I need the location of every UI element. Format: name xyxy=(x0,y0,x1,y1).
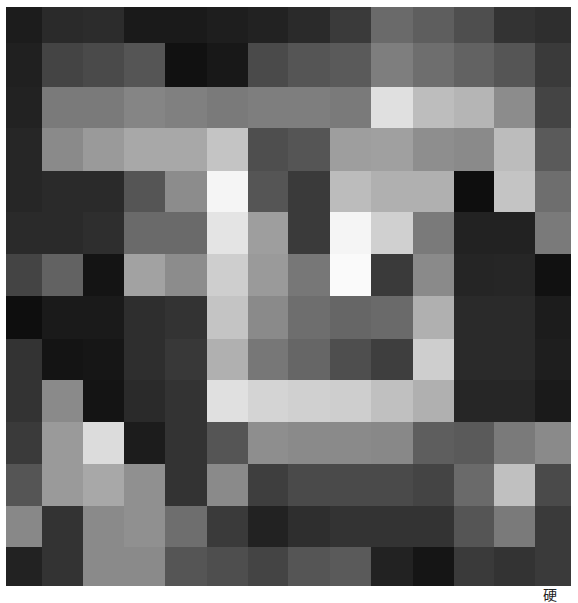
grid-cell xyxy=(330,422,371,464)
grid-cell xyxy=(6,506,42,547)
grid-cell xyxy=(83,339,124,380)
grid-cell xyxy=(165,128,207,171)
grid-cell xyxy=(42,43,83,87)
grid-cell xyxy=(494,547,535,586)
grid-cell xyxy=(371,128,413,171)
grid-cell xyxy=(330,464,371,506)
grid-cell xyxy=(248,380,288,422)
grid-cell xyxy=(535,339,571,380)
grid-cell xyxy=(288,87,330,128)
grid-cell xyxy=(330,7,371,43)
grid-cell xyxy=(83,380,124,422)
grid-cell xyxy=(494,128,535,171)
grid-cell xyxy=(371,212,413,254)
grid-cell xyxy=(207,506,248,547)
grid-cell xyxy=(124,87,165,128)
grid-cell xyxy=(413,128,454,171)
grid-cell xyxy=(207,254,248,296)
grid-cell xyxy=(124,128,165,171)
grid-cell xyxy=(83,296,124,339)
grid-cell xyxy=(6,254,42,296)
grid-cell xyxy=(535,43,571,87)
grid-cell xyxy=(42,171,83,212)
grid-cell xyxy=(248,128,288,171)
grid-cell xyxy=(494,254,535,296)
grid-cell xyxy=(124,43,165,87)
grid-cell xyxy=(413,296,454,339)
grid-cell xyxy=(248,547,288,586)
grid-cell xyxy=(124,339,165,380)
grid-cell xyxy=(454,171,494,212)
grid-cell xyxy=(371,43,413,87)
grid-cell xyxy=(124,422,165,464)
grid-cell xyxy=(330,43,371,87)
grid-cell xyxy=(330,254,371,296)
grid-cell xyxy=(330,547,371,586)
grid-cell xyxy=(207,43,248,87)
grid-cell xyxy=(42,464,83,506)
grid-cell xyxy=(6,422,42,464)
grid-cell xyxy=(371,506,413,547)
grid-cell xyxy=(288,506,330,547)
grid-cell xyxy=(124,506,165,547)
grid-cell xyxy=(124,212,165,254)
grid-cell xyxy=(124,464,165,506)
grid-cell xyxy=(454,464,494,506)
grid-cell xyxy=(288,547,330,586)
grid-cell xyxy=(124,7,165,43)
grid-cell xyxy=(288,380,330,422)
grid-cell xyxy=(248,506,288,547)
grid-cell xyxy=(124,171,165,212)
grid-cell xyxy=(288,7,330,43)
grid-cell xyxy=(42,7,83,43)
grid-cell xyxy=(165,43,207,87)
grid-cell xyxy=(207,212,248,254)
grid-cell xyxy=(42,254,83,296)
grid-cell xyxy=(413,339,454,380)
grid-cell xyxy=(207,339,248,380)
grid-cell xyxy=(124,380,165,422)
grid-cell xyxy=(83,464,124,506)
grid-cell xyxy=(42,339,83,380)
grid-cell xyxy=(248,43,288,87)
grid-cell xyxy=(165,7,207,43)
grid-cell xyxy=(535,87,571,128)
grid-cell xyxy=(83,128,124,171)
grid-cell xyxy=(535,464,571,506)
grid-cell xyxy=(6,7,42,43)
grid-cell xyxy=(6,296,42,339)
grid-cell xyxy=(83,7,124,43)
grid-cell xyxy=(371,380,413,422)
grid-cell xyxy=(535,296,571,339)
grid-cell xyxy=(413,422,454,464)
grid-cell xyxy=(371,422,413,464)
grid-cell xyxy=(330,212,371,254)
grid-cell xyxy=(42,296,83,339)
grid-cell xyxy=(494,422,535,464)
grid-cell xyxy=(248,171,288,212)
grid-cell xyxy=(494,506,535,547)
grid-cell xyxy=(83,254,124,296)
grid-cell xyxy=(330,296,371,339)
grid-cell xyxy=(165,464,207,506)
grid-cell xyxy=(42,128,83,171)
grid-cell xyxy=(288,254,330,296)
grid-cell xyxy=(165,422,207,464)
grid-cell xyxy=(330,339,371,380)
grid-cell xyxy=(248,7,288,43)
grid-cell xyxy=(494,87,535,128)
grid-cell xyxy=(42,380,83,422)
grid-cell xyxy=(330,128,371,171)
grid-cell xyxy=(413,171,454,212)
grid-cell xyxy=(454,339,494,380)
grid-cell xyxy=(6,464,42,506)
grid-cell xyxy=(413,254,454,296)
grid-cell xyxy=(207,128,248,171)
grid-cell xyxy=(248,87,288,128)
grid-cell xyxy=(330,171,371,212)
grid-cell xyxy=(371,7,413,43)
grid-cell xyxy=(454,87,494,128)
grid-cell xyxy=(165,506,207,547)
grid-cell xyxy=(413,506,454,547)
grid-cell xyxy=(165,171,207,212)
